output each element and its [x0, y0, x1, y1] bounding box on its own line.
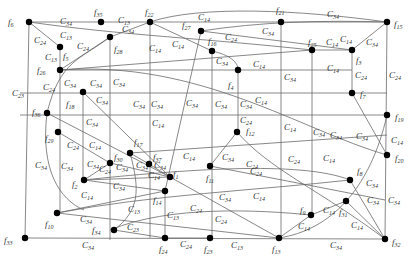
edge-cost-label: C34 — [366, 178, 378, 189]
edge-cost-label: C34 — [64, 78, 76, 89]
edge-cost-label: C24 — [225, 32, 237, 43]
edge-cost-label: C14 — [253, 191, 265, 202]
edge-cost-label: C34 — [367, 195, 379, 206]
node-f26 — [57, 67, 63, 73]
node-label-f7: f7 — [360, 89, 367, 100]
edge-cost-label: C24 — [43, 82, 55, 93]
edge-cost-label: C34 — [262, 26, 274, 37]
edge — [201, 21, 387, 31]
edge — [352, 93, 387, 155]
node-label-f25: f25 — [308, 37, 317, 48]
node-f32 — [382, 236, 388, 242]
edge-cost-label: C14 — [152, 118, 164, 129]
edge — [25, 22, 29, 238]
edge-cost-label: C13 — [45, 52, 57, 63]
edge-cost-label: C14 — [149, 43, 161, 54]
node-label-f9: f9 — [300, 205, 306, 216]
edge-cost-label: C14 — [198, 12, 210, 23]
edge-cost-label: C34 — [215, 99, 227, 110]
node-label-f15: f15 — [394, 19, 403, 30]
edge — [114, 230, 165, 238]
edge-cost-label: C34 — [284, 72, 296, 83]
node-label-f17: f17 — [134, 137, 144, 148]
edge-cost-label: C24 — [355, 70, 367, 81]
node-label-f10: f10 — [45, 219, 54, 230]
node-f14 — [162, 188, 168, 194]
edge-cost-label: C34 — [240, 99, 252, 110]
edge-cost-label: C24 — [288, 154, 300, 165]
node-f29 — [55, 129, 61, 135]
node-label-f22: f22 — [145, 7, 154, 18]
node-label-f18: f18 — [66, 99, 75, 110]
edge-cost-label: C14 — [327, 63, 339, 74]
edge-cost-label: C23 — [12, 88, 24, 99]
edge-cost-label: C34 — [219, 192, 231, 203]
edge — [60, 50, 312, 70]
edge — [60, 69, 387, 155]
edge-cost-label: C14 — [148, 170, 160, 181]
edge-cost-label: C14 — [323, 205, 335, 216]
edge-cost-label: C24 — [240, 115, 252, 126]
node-label-f19: f19 — [395, 112, 404, 123]
edge-cost-label: C34 — [133, 99, 145, 110]
edge-cost-label: C34 — [86, 117, 98, 128]
edge-cost-label: C13 — [128, 204, 140, 215]
node-f6 — [26, 19, 32, 25]
node-label-f28: f28 — [114, 44, 123, 55]
node-f2 — [81, 177, 87, 183]
edge — [170, 177, 279, 238]
edge-cost-label: C34 — [356, 131, 368, 142]
edge-cost-label: C34 — [113, 181, 125, 192]
edge-cost-label: C34 — [330, 240, 342, 251]
node-f15 — [384, 19, 390, 25]
node-label-f23: f23 — [204, 244, 213, 255]
edge-cost-label: C34 — [82, 240, 94, 251]
node-f17 — [127, 150, 133, 156]
edge-cost-label: C24 — [67, 140, 79, 151]
edge-cost-label: C24 — [250, 166, 262, 177]
edge-cost-label: C13 — [60, 30, 72, 41]
node-label-f32: f32 — [392, 237, 401, 248]
edge — [165, 31, 201, 191]
node-label-f5: f5 — [63, 51, 69, 62]
node-f36 — [44, 110, 50, 116]
edge-cost-label: C34 — [113, 77, 125, 88]
node-label-f35: f35 — [94, 7, 103, 18]
node-f5 — [57, 44, 63, 50]
node-f31 — [343, 198, 349, 204]
node-f12 — [234, 129, 240, 135]
edge-cost-label: C24 — [34, 35, 46, 46]
node-f24 — [162, 235, 168, 241]
edge-cost-label: C23 — [127, 222, 139, 233]
node-f33 — [22, 235, 28, 241]
edge-cost-label: C34 — [327, 9, 339, 20]
edge-cost-label: C14 — [391, 135, 403, 146]
edge-cost-label: C34 — [60, 16, 72, 27]
edge-cost-label: C14 — [89, 140, 101, 151]
node-f16 — [209, 48, 215, 54]
edge-cost-label: C34 — [90, 78, 102, 89]
edge-cost-label: C34 — [330, 130, 342, 141]
node-f22 — [147, 19, 153, 25]
node-f34 — [111, 227, 117, 233]
edge-cost-label: C24 — [215, 214, 227, 225]
edge-cost-label: C14 — [340, 34, 352, 45]
node-f9 — [308, 212, 314, 218]
edge — [150, 11, 387, 22]
edge — [130, 135, 387, 153]
edge-cost-label: C34 — [388, 195, 400, 206]
node-f20 — [384, 152, 390, 158]
node-f18 — [80, 89, 86, 95]
edge-cost-label: C14 — [253, 59, 265, 70]
node-label-f4: f4 — [228, 80, 234, 91]
node-f21 — [278, 19, 284, 25]
node-f27 — [198, 28, 204, 34]
node-label-f2: f2 — [72, 179, 78, 190]
edge-cost-label: C13 — [167, 210, 179, 221]
edge-cost-label: C24 — [77, 41, 89, 52]
node-f35 — [98, 19, 104, 25]
edge-cost-label: C24 — [190, 203, 202, 214]
edge-cost-label: C14 — [323, 153, 335, 164]
graph-diagram: C34C13C24C13C13C24C34C14C14C14C24C34C34C… — [0, 0, 414, 261]
node-f7 — [349, 90, 355, 96]
